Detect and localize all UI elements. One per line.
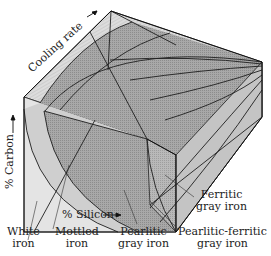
iron-phase-diagram: Cooling rate % Carbon % Silicon White ir… xyxy=(0,0,271,256)
label-pearlitic-gray-iron: Pearlitic gray iron xyxy=(118,226,169,250)
label-ferritic-gray-iron: Ferritic gray iron xyxy=(196,189,247,213)
diagram-graphic xyxy=(0,0,271,256)
silicon-label: % Silicon xyxy=(62,209,114,221)
label-mottled-iron: Mottled iron xyxy=(55,226,99,250)
label-white-iron: White iron xyxy=(7,226,40,250)
label-pearlitic-ferritic-gray-iron: Pearlitic-ferritic gray iron xyxy=(178,226,267,250)
carbon-label: % Carbon xyxy=(3,134,16,189)
